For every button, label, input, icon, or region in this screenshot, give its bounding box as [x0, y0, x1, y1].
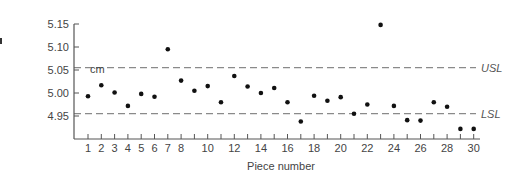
data-point	[272, 86, 277, 91]
x-tick-label: 4	[125, 142, 131, 154]
data-point	[152, 94, 157, 99]
data-point	[179, 78, 184, 83]
data-point	[299, 119, 304, 124]
data-point	[352, 111, 357, 116]
data-point	[192, 88, 197, 93]
data-point	[259, 91, 264, 96]
x-axis-ticks: 123456781012141618202224262830	[85, 134, 480, 154]
y-axis-label: cm	[90, 63, 105, 75]
data-point	[139, 92, 144, 97]
data-point	[285, 100, 290, 105]
x-tick-label: 3	[112, 142, 118, 154]
x-tick-label: 28	[441, 142, 453, 154]
x-tick-label: 24	[388, 142, 400, 154]
data-point	[458, 127, 463, 132]
data-point	[471, 127, 476, 132]
x-tick-label: 20	[335, 142, 347, 154]
data-point	[219, 100, 224, 105]
data-point	[205, 84, 210, 89]
y-tick-label: 5.05	[48, 64, 69, 76]
data-points	[86, 23, 476, 132]
data-point	[86, 94, 91, 99]
x-tick-label: 22	[361, 142, 373, 154]
x-tick-label: 8	[178, 142, 184, 154]
x-tick-label: 10	[202, 142, 214, 154]
specification-limit-lines: USLLSL	[74, 62, 502, 120]
data-point	[338, 95, 343, 100]
data-point	[126, 104, 131, 109]
data-point	[445, 105, 450, 110]
data-point	[312, 93, 317, 98]
x-tick-label: 30	[468, 142, 480, 154]
data-point	[325, 99, 330, 104]
x-tick-label: 6	[151, 142, 157, 154]
x-tick-label: 12	[228, 142, 240, 154]
x-tick-label: 26	[414, 142, 426, 154]
x-tick-label: 1	[85, 142, 91, 154]
y-tick-label: 5.10	[48, 41, 69, 53]
x-tick-label: 5	[138, 142, 144, 154]
data-point	[112, 90, 117, 95]
data-point	[166, 47, 171, 52]
data-point	[99, 83, 104, 88]
data-point	[245, 84, 250, 89]
x-tick-label: 18	[308, 142, 320, 154]
lsl-label: LSL	[481, 108, 501, 120]
data-point	[418, 118, 423, 123]
data-point	[378, 23, 383, 28]
y-tick-label: 5.00	[48, 87, 69, 99]
x-tick-label: 7	[165, 142, 171, 154]
x-axis-label: Piece number	[247, 160, 315, 172]
data-point	[432, 100, 437, 105]
data-point	[365, 102, 370, 107]
data-point	[405, 118, 410, 123]
x-tick-label: 14	[255, 142, 267, 154]
x-tick-label: 2	[98, 142, 104, 154]
usl-label: USL	[481, 62, 502, 74]
y-tick-label: 4.95	[48, 110, 69, 122]
y-tick-label: 5.15	[48, 18, 69, 30]
data-point	[392, 104, 397, 109]
x-tick-label: 16	[281, 142, 293, 154]
data-point	[232, 74, 237, 79]
scatter-chart: USLLSL 5.155.105.055.004.95 123456781012…	[0, 0, 524, 186]
